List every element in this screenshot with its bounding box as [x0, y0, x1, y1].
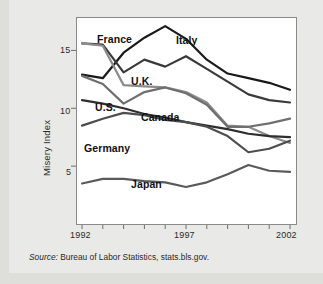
series-label-italy: Italy — [176, 34, 198, 46]
series-label-france: France — [97, 33, 132, 45]
series-label-us: U.S. — [95, 101, 116, 113]
source-note: Source: Bureau of Labor Statistics, stat… — [29, 252, 209, 262]
series-label-uk: U.K. — [131, 75, 152, 87]
series-label-canada: Canada — [141, 111, 180, 123]
axis-tick-marks — [0, 0, 323, 284]
source-label: Source: — [29, 252, 58, 262]
chart-figure: Misery Index 15 10 5 1992 1997 2002 Fran… — [0, 0, 323, 284]
series-label-japan: Japan — [131, 178, 162, 190]
series-label-germany: Germany — [84, 142, 130, 154]
source-text: Bureau of Labor Statistics, stats.bls.go… — [60, 252, 209, 262]
